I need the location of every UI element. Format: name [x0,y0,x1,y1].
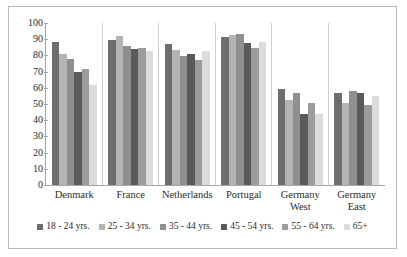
y-axis-tick-label: 90 [17,34,43,44]
bar[interactable] [52,42,60,185]
bar[interactable] [74,72,82,185]
y-axis-tick-label: 10 [17,164,43,174]
bar[interactable] [315,114,323,185]
x-axis-category-label: France [103,189,160,213]
x-axis-category-label: Germany West [272,189,329,213]
bar[interactable] [138,48,146,185]
bar[interactable] [229,35,237,185]
legend-label: 18 - 24 yrs. [46,222,89,232]
y-axis-tick-label: 40 [17,115,43,125]
bar[interactable] [67,59,75,185]
x-axis-category-label: Netherlands [159,189,216,213]
bar[interactable] [116,36,124,185]
bar[interactable] [372,96,380,185]
bar-group [46,23,103,185]
y-axis-tick-label: 50 [17,99,43,109]
x-axis-category-label: Portugal [216,189,273,213]
bar[interactable] [59,54,67,185]
bar[interactable] [364,105,372,185]
bar[interactable] [146,51,154,185]
chart-frame: 0102030405060708090100 DenmarkFranceNeth… [8,6,397,249]
bar[interactable] [285,100,293,185]
bar[interactable] [308,103,316,185]
bar[interactable] [221,37,229,185]
bar-group [272,23,329,185]
bar[interactable] [187,54,195,185]
x-axis-labels: DenmarkFranceNetherlandsPortugalGermany … [46,189,385,213]
bar[interactable] [180,56,188,185]
bar[interactable] [165,44,173,185]
x-axis-category-label: Denmark [46,189,103,213]
bar[interactable] [357,93,365,185]
legend-item[interactable]: 45 - 54 yrs. [221,222,273,232]
chart-legend: 18 - 24 yrs.25 - 34 yrs.35 - 44 yrs.45 -… [9,222,396,232]
legend-swatch-icon [344,224,350,230]
y-axis-tick [44,185,48,186]
legend-swatch-icon [221,224,227,230]
legend-item[interactable]: 35 - 44 yrs. [160,222,212,232]
bar[interactable] [108,40,116,185]
legend-label: 55 - 64 yrs. [291,222,334,232]
y-axis-tick-label: 0 [17,180,43,190]
bar[interactable] [131,49,139,185]
bar[interactable] [89,85,97,185]
y-axis-tick-label: 20 [17,148,43,158]
bar[interactable] [300,114,308,185]
y-axis-tick-label: 60 [17,83,43,93]
bar[interactable] [236,34,244,185]
bar-group [103,23,160,185]
bar-group [159,23,216,185]
y-axis-tick-label: 30 [17,131,43,141]
legend-item[interactable]: 18 - 24 yrs. [37,222,89,232]
bar[interactable] [349,91,357,185]
bar[interactable] [342,103,350,185]
legend-item[interactable]: 65+ [344,222,368,232]
legend-item[interactable]: 25 - 34 yrs. [99,222,151,232]
bar[interactable] [293,93,301,185]
bar[interactable] [334,93,342,185]
bar-group [216,23,273,185]
legend-item[interactable]: 55 - 64 yrs. [282,222,334,232]
legend-label: 25 - 34 yrs. [108,222,151,232]
bar[interactable] [251,48,259,185]
bar[interactable] [202,51,210,185]
legend-label: 45 - 54 yrs. [230,222,273,232]
bar[interactable] [123,46,131,185]
y-axis-tick-label: 70 [17,67,43,77]
bar[interactable] [244,43,252,185]
x-axis-category-label: Germany East [329,189,386,213]
plot-area: 0102030405060708090100 [45,23,385,186]
bar[interactable] [259,42,267,185]
bar-groups [46,23,385,185]
bar[interactable] [82,69,90,185]
legend-swatch-icon [160,224,166,230]
legend-swatch-icon [282,224,288,230]
bar[interactable] [195,60,203,185]
bar[interactable] [172,50,180,185]
bar-group [329,23,386,185]
y-axis-tick-label: 100 [17,18,43,28]
y-axis-tick-label: 80 [17,50,43,60]
x-axis-line [45,185,385,186]
legend-swatch-icon [99,224,105,230]
legend-swatch-icon [37,224,43,230]
legend-label: 35 - 44 yrs. [169,222,212,232]
bar[interactable] [278,89,286,185]
legend-label: 65+ [353,222,368,232]
